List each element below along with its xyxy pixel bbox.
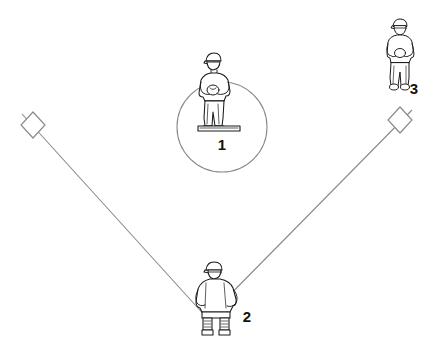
pitcher-glove bbox=[207, 85, 219, 95]
fielder-left-shoe bbox=[390, 84, 399, 90]
baseball-field-diagram: 1 2 bbox=[0, 0, 436, 341]
catcher-thighs bbox=[202, 312, 230, 318]
pitching-rubber bbox=[198, 126, 240, 131]
fielder-label: 3 bbox=[410, 80, 418, 97]
fielder-glove bbox=[395, 49, 406, 58]
catcher-right-shoe bbox=[219, 330, 230, 335]
pitcher-label: 1 bbox=[218, 136, 226, 153]
fielder-right-shoe bbox=[401, 84, 410, 90]
catcher-torso bbox=[196, 279, 236, 312]
catcher-label: 2 bbox=[243, 308, 251, 325]
catcher-left-shoe bbox=[202, 330, 213, 335]
